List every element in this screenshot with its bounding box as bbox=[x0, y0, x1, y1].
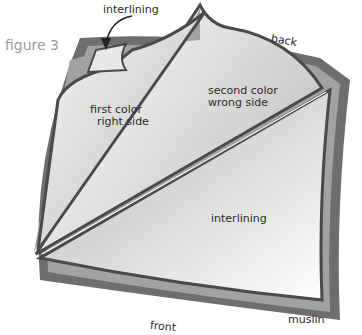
label-second-color-2: wrong side bbox=[208, 96, 268, 109]
figure-label: figure 3 bbox=[5, 37, 59, 53]
label-first-color-2: right side bbox=[97, 115, 149, 128]
label-front: front bbox=[149, 319, 176, 334]
label-interlining-center: interlining bbox=[211, 212, 267, 225]
label-interlining-top: interlining bbox=[103, 3, 159, 16]
label-muslin: muslin bbox=[288, 313, 325, 326]
